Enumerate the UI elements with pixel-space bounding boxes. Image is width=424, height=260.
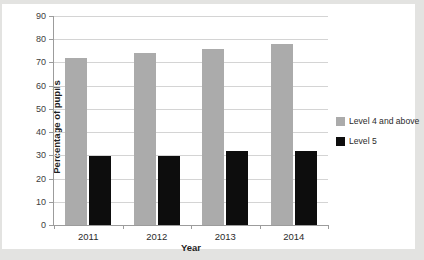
y-axis-tick-label: 40 <box>36 127 46 137</box>
y-axis-tick <box>49 132 54 133</box>
y-axis-tick-label: 20 <box>36 174 46 184</box>
y-axis-tick <box>49 109 54 110</box>
plot-area: 0102030405060708090 2011201220132014 <box>54 16 328 225</box>
bar <box>271 44 293 225</box>
y-axis-tick-label: 10 <box>36 197 46 207</box>
y-axis-tick <box>49 86 54 87</box>
legend-label: Level 5 <box>349 136 377 146</box>
x-axis-tick <box>260 225 261 229</box>
y-axis-line <box>53 16 54 225</box>
bar <box>295 151 317 225</box>
x-axis-tick-label: 2012 <box>146 231 167 242</box>
chart-page: Percentage of pupils 0102030405060708090… <box>0 0 424 260</box>
clipped-heading-text <box>0 0 424 2</box>
gridline <box>54 39 328 40</box>
legend-item[interactable]: Level 5 <box>336 136 422 146</box>
x-axis-title: Year <box>54 242 328 253</box>
y-axis-tick <box>49 179 54 180</box>
y-axis-tick-label: 30 <box>36 150 46 160</box>
bar <box>134 53 156 225</box>
legend-swatch-icon <box>336 137 345 146</box>
y-axis-tick-label: 80 <box>36 34 46 44</box>
bar <box>202 49 224 225</box>
x-axis-tick <box>123 225 124 229</box>
y-axis-tick <box>49 155 54 156</box>
bar <box>65 58 87 225</box>
x-axis-tick-label: 2013 <box>215 231 236 242</box>
x-axis-tick <box>54 225 55 229</box>
y-axis-tick <box>49 62 54 63</box>
legend-swatch-icon <box>336 117 345 126</box>
x-axis-tick <box>328 225 329 229</box>
y-axis-tick-label: 70 <box>36 57 46 67</box>
bar <box>158 156 180 225</box>
legend-item[interactable]: Level 4 and above <box>336 116 422 126</box>
chart-card: Percentage of pupils 0102030405060708090… <box>2 4 415 249</box>
y-axis-tick-label: 90 <box>36 11 46 21</box>
bar <box>226 151 248 225</box>
y-axis-tick-label: 50 <box>36 104 46 114</box>
gridline <box>54 16 328 17</box>
x-axis-tick <box>191 225 192 229</box>
y-axis-tick-label: 60 <box>36 81 46 91</box>
y-axis-tick <box>49 202 54 203</box>
y-axis-tick <box>49 16 54 17</box>
legend-label: Level 4 and above <box>349 116 419 126</box>
x-axis-tick-label: 2014 <box>283 231 304 242</box>
x-axis-tick-label: 2011 <box>78 231 98 242</box>
y-axis-tick-label: 0 <box>41 220 46 230</box>
chart-legend: Level 4 and aboveLevel 5 <box>336 116 422 156</box>
bar <box>89 156 111 225</box>
y-axis-tick <box>49 39 54 40</box>
